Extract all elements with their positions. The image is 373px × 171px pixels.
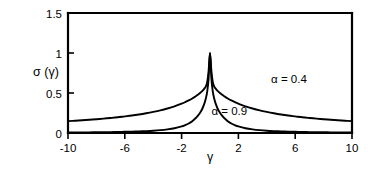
y-tick-label-1-5: 1.5 [46, 8, 62, 20]
series-label-alpha-0-9: α = 0.9 [211, 105, 247, 117]
x-tick-label-10: 10 [346, 142, 359, 154]
y-axis-title: σ (γ) [33, 65, 59, 79]
x-axis-title: γ [207, 150, 214, 164]
y-tick-label-1: 1 [56, 48, 62, 60]
y-tick-label-0-5: 0.5 [46, 88, 62, 100]
x-tick-label--10: -10 [60, 142, 77, 154]
sigma-gamma-line-chart: 0 0.5 1 1.5 -10 -6 -2 2 6 10 σ (γ) γ α =… [0, 0, 373, 171]
x-tick-label-6: 6 [292, 142, 298, 154]
x-tick-label-2: 2 [235, 142, 241, 154]
x-tick-label--2: -2 [176, 142, 186, 154]
chart-figure: 0 0.5 1 1.5 -10 -6 -2 2 6 10 σ (γ) γ α =… [0, 0, 373, 171]
y-tick-label-0: 0 [56, 128, 62, 140]
series-label-alpha-0-4: α = 0.4 [271, 73, 307, 85]
x-tick-label--6: -6 [120, 142, 130, 154]
